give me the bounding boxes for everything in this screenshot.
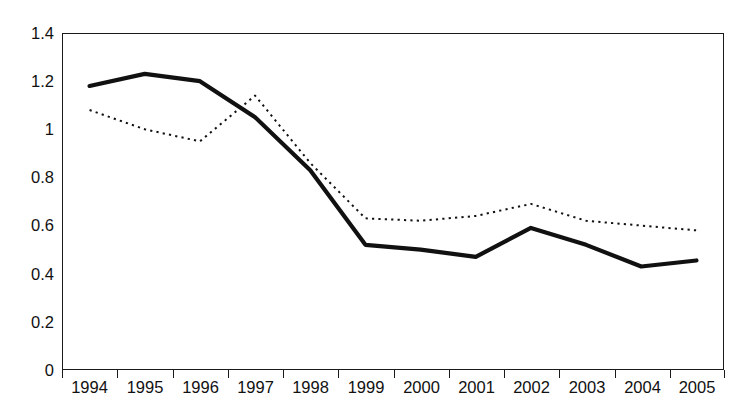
y-tick-label-1-2: 1.2: [31, 73, 54, 90]
x-tick-label-2000: 2000: [394, 378, 449, 396]
x-tick-label-2004: 2004: [615, 378, 670, 396]
x-tick-label-2002: 2002: [504, 378, 559, 396]
x-tick-mark-5: [338, 370, 339, 378]
x-tick-label-1995: 1995: [117, 378, 173, 396]
x-tick-mark-3: [228, 370, 229, 378]
y-tick-label-1-4: 1.4: [31, 25, 54, 42]
y-axis-label-group: 1.4 1.2 1 0.8 0.6 0.4 0.2 0: [0, 0, 54, 412]
y-tick-label-0-6: 0.6: [31, 217, 54, 234]
x-tick-label-1999: 1999: [338, 378, 394, 396]
x-tick-mark-7: [449, 370, 450, 378]
x-tick-mark-9: [559, 370, 560, 378]
x-tick-mark-6: [394, 370, 395, 378]
x-tick-label-1996: 1996: [173, 378, 228, 396]
x-tick-label-2001: 2001: [449, 378, 504, 396]
y-tick-label-0-2: 0.2: [31, 314, 54, 331]
x-tick-mark-1: [117, 370, 118, 378]
y-tick-label-0-4: 0.4: [31, 266, 54, 283]
plot-area-frame: [62, 33, 724, 370]
line-chart: 1.4 1.2 1 0.8 0.6 0.4 0.2 0 1994 1995 19…: [0, 0, 751, 412]
x-tick-label-2005: 2005: [670, 378, 724, 396]
y-tick-label-1: 1: [45, 121, 54, 138]
x-tick-mark-12: [724, 370, 725, 378]
y-tick-label-0-8: 0.8: [31, 169, 54, 186]
x-tick-mark-0: [62, 370, 63, 378]
x-tick-mark-2: [173, 370, 174, 378]
x-tick-mark-11: [670, 370, 671, 378]
y-tick-label-0: 0: [45, 362, 54, 379]
x-tick-label-2003: 2003: [559, 378, 615, 396]
x-tick-mark-10: [615, 370, 616, 378]
x-tick-mark-8: [504, 370, 505, 378]
x-tick-mark-4: [283, 370, 284, 378]
x-tick-label-1998: 1998: [283, 378, 338, 396]
x-tick-label-1994: 1994: [62, 378, 117, 396]
x-tick-label-1997: 1997: [228, 378, 283, 396]
